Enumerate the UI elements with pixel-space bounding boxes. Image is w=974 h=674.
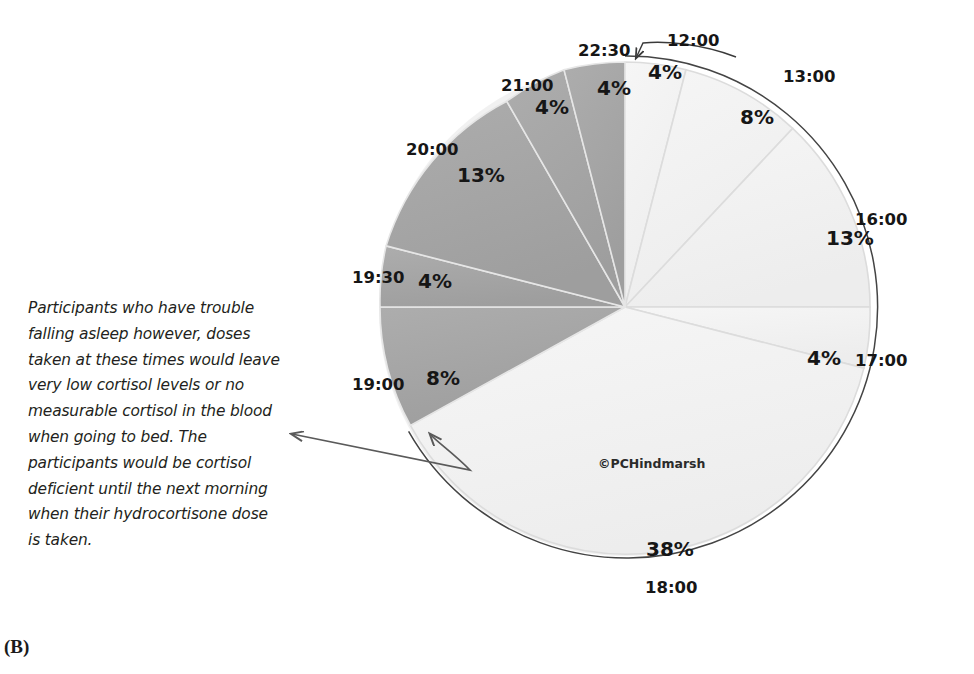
percent-label-2100: 4% xyxy=(535,97,569,117)
time-label-2000: 20:00 xyxy=(406,142,459,159)
time-label-1300: 13:00 xyxy=(783,69,836,86)
percent-label-2230: 4% xyxy=(597,78,631,98)
percent-label-1800: 38% xyxy=(646,539,694,559)
percent-label-2000: 13% xyxy=(457,165,505,185)
time-label-1700: 17:00 xyxy=(855,353,908,370)
percent-label-1930: 4% xyxy=(418,271,452,291)
time-label-1900: 19:00 xyxy=(352,377,405,394)
figure-caption: Participants who have trouble falling as… xyxy=(28,296,280,554)
percent-label-1700: 4% xyxy=(807,348,841,368)
percent-label-1300: 8% xyxy=(740,107,774,127)
figure-panel: 12:004%13:008%16:0013%17:004%18:0038%19:… xyxy=(0,0,974,674)
percent-label-1200: 4% xyxy=(648,62,682,82)
time-label-1200: 12:00 xyxy=(667,33,720,50)
time-label-2230: 22:30 xyxy=(578,43,631,60)
percent-label-1900: 8% xyxy=(426,368,460,388)
percent-label-1600: 13% xyxy=(826,228,874,248)
watermark: ©PCHindmarsh xyxy=(598,456,705,471)
time-label-1930: 19:30 xyxy=(352,270,405,287)
panel-label: (B) xyxy=(4,636,29,658)
time-label-2100: 21:00 xyxy=(501,78,554,95)
time-label-1800: 18:00 xyxy=(645,580,698,597)
